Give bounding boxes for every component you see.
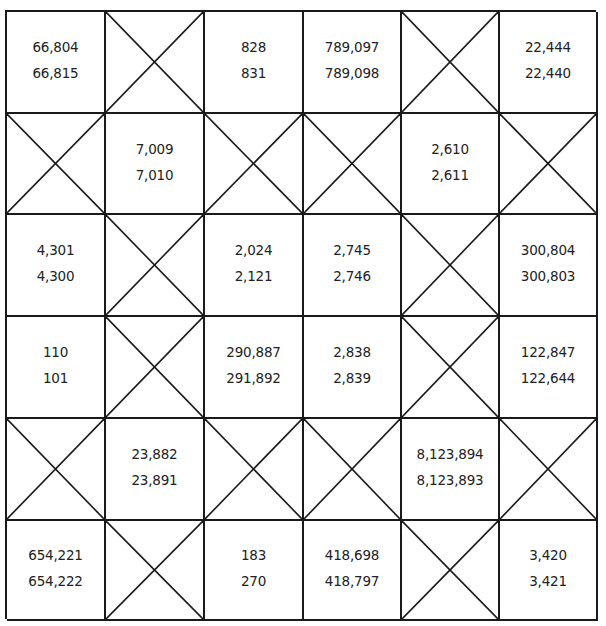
bottom-number: 270: [241, 568, 266, 594]
number-pair-cell: 4,3014,300: [7, 215, 106, 317]
top-number: 300,804: [521, 237, 575, 263]
x-cross-icon: [106, 215, 203, 315]
number-pair-cell: 300,804300,803: [500, 215, 598, 317]
crossed-cell: [304, 114, 402, 215]
number-pair-cell: 789,097789,098: [304, 12, 402, 114]
bottom-number: 23,891: [131, 467, 177, 493]
x-cross-icon: [500, 114, 596, 213]
top-number: 3,420: [529, 542, 567, 568]
x-cross-icon: [7, 114, 104, 213]
number-pair-cell: 66,80466,815: [7, 12, 106, 114]
crossed-cell: [106, 12, 205, 114]
x-cross-icon: [402, 317, 498, 417]
number-pair-cell: 2,6102,611: [402, 114, 500, 215]
x-cross-icon: [500, 419, 596, 519]
top-number: 4,301: [37, 237, 75, 263]
bottom-number: 7,010: [136, 162, 174, 188]
number-pair-cell: 122,847122,644: [500, 317, 598, 419]
bottom-number: 300,803: [521, 263, 575, 289]
number-pair-cell: 2,0242,121: [205, 215, 304, 317]
bottom-number: 4,300: [37, 263, 75, 289]
number-pair-cell: 2,8382,839: [304, 317, 402, 419]
top-number: 122,847: [521, 339, 575, 365]
crossed-cell: [7, 419, 106, 521]
bottom-number: 654,222: [28, 568, 82, 594]
top-number: 66,804: [32, 34, 78, 60]
bottom-number: 2,746: [333, 263, 371, 289]
top-number: 8,123,894: [417, 441, 484, 467]
bottom-number: 8,123,893: [417, 467, 484, 493]
number-pair-cell: 418,698418,797: [304, 521, 402, 621]
bottom-number: 2,121: [235, 263, 273, 289]
top-number: 654,221: [28, 542, 82, 568]
number-pair-cell: 828831: [205, 12, 304, 114]
top-number: 23,882: [131, 441, 177, 467]
bottom-number: 22,440: [525, 60, 571, 86]
crossed-cell: [500, 114, 598, 215]
crossed-cell: [106, 317, 205, 419]
number-pair-cell: 3,4203,421: [500, 521, 598, 621]
top-number: 290,887: [226, 339, 280, 365]
number-pair-cell: 183270: [205, 521, 304, 621]
crossed-cell: [7, 114, 106, 215]
x-cross-icon: [205, 114, 302, 213]
number-pair-grid: 66,80466,815828831789,097789,09822,44422…: [5, 10, 596, 619]
crossed-cell: [106, 215, 205, 317]
crossed-cell: [402, 12, 500, 114]
x-cross-icon: [304, 114, 400, 213]
x-cross-icon: [106, 317, 203, 417]
bottom-number: 66,815: [32, 60, 78, 86]
x-cross-icon: [402, 521, 498, 619]
number-pair-cell: 7,0097,010: [106, 114, 205, 215]
bottom-number: 3,421: [529, 568, 567, 594]
bottom-number: 2,839: [333, 365, 371, 391]
crossed-cell: [402, 521, 500, 621]
bottom-number: 418,797: [325, 568, 379, 594]
top-number: 418,698: [325, 542, 379, 568]
top-number: 2,610: [431, 136, 469, 162]
top-number: 110: [43, 339, 68, 365]
crossed-cell: [205, 419, 304, 521]
number-pair-cell: 23,88223,891: [106, 419, 205, 521]
crossed-cell: [106, 521, 205, 621]
top-number: 2,745: [333, 237, 371, 263]
top-number: 2,024: [235, 237, 273, 263]
x-cross-icon: [304, 419, 400, 519]
number-pair-cell: 22,44422,440: [500, 12, 598, 114]
crossed-cell: [402, 317, 500, 419]
bottom-number: 101: [43, 365, 68, 391]
number-pair-cell: 290,887291,892: [205, 317, 304, 419]
bottom-number: 789,098: [325, 60, 379, 86]
number-pair-cell: 2,7452,746: [304, 215, 402, 317]
top-number: 2,838: [333, 339, 371, 365]
number-pair-cell: 8,123,8948,123,893: [402, 419, 500, 521]
number-pair-cell: 110101: [7, 317, 106, 419]
top-number: 183: [241, 542, 266, 568]
x-cross-icon: [402, 215, 498, 315]
top-number: 828: [241, 34, 266, 60]
top-number: 789,097: [325, 34, 379, 60]
bottom-number: 831: [241, 60, 266, 86]
crossed-cell: [402, 215, 500, 317]
number-pair-cell: 654,221654,222: [7, 521, 106, 621]
x-cross-icon: [7, 419, 104, 519]
bottom-number: 122,644: [521, 365, 575, 391]
x-cross-icon: [402, 12, 498, 112]
bottom-number: 2,611: [431, 162, 469, 188]
crossed-cell: [304, 419, 402, 521]
x-cross-icon: [205, 419, 302, 519]
top-number: 22,444: [525, 34, 571, 60]
x-cross-icon: [106, 521, 203, 619]
x-cross-icon: [106, 12, 203, 112]
crossed-cell: [205, 114, 304, 215]
bottom-number: 291,892: [226, 365, 280, 391]
crossed-cell: [500, 419, 598, 521]
top-number: 7,009: [136, 136, 174, 162]
